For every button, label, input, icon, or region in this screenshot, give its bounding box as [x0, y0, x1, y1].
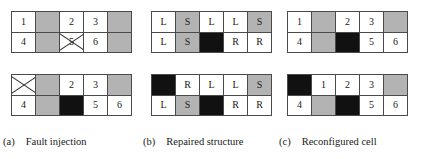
grid-cell — [312, 33, 336, 54]
grid-cell-label: L — [160, 17, 166, 27]
grid-cell-label: 6 — [117, 100, 122, 110]
grid-cell: 4 — [12, 96, 36, 117]
grid-cell: 4 — [288, 96, 312, 117]
grid-cell-label: 5 — [69, 37, 74, 47]
grid-cell: 1 — [288, 12, 312, 33]
grid-cell — [12, 75, 36, 96]
grid-cell-label: R — [256, 100, 263, 110]
grid-cell-label: 3 — [369, 17, 374, 27]
grid-cell-label: 4 — [21, 100, 26, 110]
grid-cell: R — [224, 96, 248, 117]
grid-cell: 2 — [336, 12, 360, 33]
grid-cell: L — [224, 75, 248, 96]
cell-grid-b-top: LSLLSLSRR — [151, 11, 272, 53]
grid-cell-label: S — [185, 37, 191, 47]
grid-cell-label: L — [160, 100, 166, 110]
grid-cell — [384, 12, 408, 33]
panel-caption-text: Reconfigured cell — [291, 136, 377, 147]
grid-cell: 6 — [84, 33, 108, 54]
grid-cell-label: R — [232, 37, 239, 47]
panel-caption-text: Repaired structure — [155, 136, 243, 147]
grid-cell: S — [176, 12, 200, 33]
grid-cell — [108, 12, 132, 33]
grid-cell: L — [200, 75, 224, 96]
grid-cell — [200, 33, 224, 54]
grid-cell: 5 — [60, 33, 84, 54]
grid-cell: 3 — [84, 75, 108, 96]
figure-container: 12345623456(a)Fault injectionLSLLSLSRRRL… — [0, 0, 427, 159]
grid-cell-label: S — [257, 17, 263, 27]
grid-cell — [312, 12, 336, 33]
grid-cell-label: 3 — [369, 80, 374, 90]
grid-cell: 6 — [384, 33, 408, 54]
grid-cell — [384, 75, 408, 96]
panel-caption: (a)Fault injection — [0, 136, 142, 147]
grid-cell-label: 6 — [93, 37, 98, 47]
grid-cell: 2 — [336, 75, 360, 96]
panel-caption-tag: (a) — [0, 136, 15, 147]
grid-cell-label: 2 — [345, 17, 350, 27]
cell-grid-a-bottom: 23456 — [11, 74, 132, 116]
grid-cell-label: 4 — [297, 37, 302, 47]
panel-caption-tag: (b) — [140, 136, 155, 147]
grid-cell: S — [248, 12, 272, 33]
grid-cell — [152, 75, 176, 96]
grid-cell: 5 — [84, 96, 108, 117]
grid-cell — [36, 12, 60, 33]
grid-cell-label: 4 — [21, 37, 26, 47]
grid-cell-label: 4 — [297, 100, 302, 110]
grid-cell: 5 — [360, 33, 384, 54]
grid-cell: 2 — [60, 75, 84, 96]
grid-cell-label: 3 — [93, 17, 98, 27]
grid-cell: S — [248, 75, 272, 96]
grid-cell: S — [176, 33, 200, 54]
grid-cell: L — [152, 12, 176, 33]
panel-c: 123456123456(c)Reconfigured cell — [276, 0, 418, 159]
grid-cell-label: 5 — [369, 37, 374, 47]
grid-cell: R — [176, 75, 200, 96]
grid-cell — [200, 96, 224, 117]
grid-cell-label: 2 — [69, 17, 74, 27]
grid-cell — [36, 75, 60, 96]
grid-cell-label: 1 — [297, 17, 302, 27]
grid-cell-label: 2 — [69, 80, 74, 90]
grid-cell-label: R — [184, 80, 191, 90]
panel-caption-text: Fault injection — [15, 136, 87, 147]
grid-cell-label: 6 — [393, 37, 398, 47]
grid-cell: R — [224, 33, 248, 54]
cell-grid-a-top: 123456 — [11, 11, 132, 53]
grid-cell: 2 — [60, 12, 84, 33]
grid-cell-label: L — [232, 80, 238, 90]
grid-cell: L — [224, 12, 248, 33]
grid-cell-label: 1 — [321, 80, 326, 90]
grid-cell: 3 — [360, 75, 384, 96]
grid-cell-label: L — [232, 17, 238, 27]
cell-grid-c-bottom: 123456 — [287, 74, 408, 116]
grid-cell: L — [152, 33, 176, 54]
grid-cell: 3 — [84, 12, 108, 33]
grid-cell: L — [200, 12, 224, 33]
grid-cell-label: L — [208, 80, 214, 90]
grid-cell — [108, 75, 132, 96]
grid-cell: R — [248, 33, 272, 54]
grid-cell-label: S — [185, 17, 191, 27]
panel-a: 12345623456(a)Fault injection — [0, 0, 142, 159]
grid-cell — [312, 96, 336, 117]
cell-grid-c-top: 123456 — [287, 11, 408, 53]
panel-caption: (c)Reconfigured cell — [276, 136, 418, 147]
grid-cell-label: S — [185, 100, 191, 110]
panel-caption-tag: (c) — [276, 136, 291, 147]
panel-caption: (b)Repaired structure — [140, 136, 282, 147]
grid-cell — [108, 33, 132, 54]
grid-cell: 4 — [288, 33, 312, 54]
grid-cell: 6 — [384, 96, 408, 117]
grid-cell: 1 — [12, 12, 36, 33]
cell-grid-b-bottom: RLLSLSRR — [151, 74, 272, 116]
grid-cell-label: 2 — [345, 80, 350, 90]
grid-cell-label: 6 — [393, 100, 398, 110]
grid-cell: 5 — [360, 96, 384, 117]
grid-cell-label: 1 — [21, 17, 26, 27]
grid-cell: S — [176, 96, 200, 117]
grid-cell — [336, 33, 360, 54]
grid-cell: 3 — [360, 12, 384, 33]
